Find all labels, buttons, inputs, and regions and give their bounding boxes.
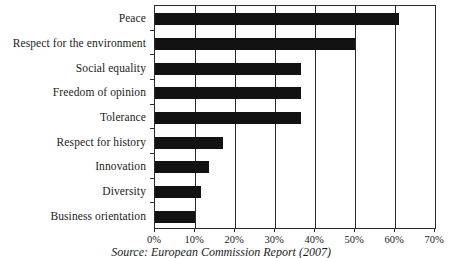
source-caption: Source: European Commission Report (2007… [0,246,450,258]
value-tick-label: 70% [414,233,450,246]
value-tick-label: 60% [374,233,414,246]
bar [155,137,223,149]
value-tick [274,228,275,232]
category-tick [150,104,155,105]
bar [155,211,195,223]
category-label: Freedom of opinion [0,86,146,98]
value-tick [194,228,195,232]
value-tick-label: 20% [214,233,254,246]
bar [155,161,209,173]
value-tick-label: 10% [174,233,214,246]
bar [155,38,355,50]
category-label: Tolerance [0,111,146,123]
value-tick-label: 0% [134,233,174,246]
bar-chart-figure: PeaceRespect for the environmentSocial e… [0,0,450,258]
plot-area [154,5,436,229]
category-tick [150,202,155,203]
value-tick-label: 30% [254,233,294,246]
category-label: Peace [0,12,146,24]
category-tick [150,79,155,80]
category-label: Respect for history [0,136,146,148]
bar [155,186,201,198]
bar [155,13,399,25]
category-tick [150,30,155,31]
value-tick [394,228,395,232]
value-tick [234,228,235,232]
category-label: Business orientation [0,210,146,222]
category-axis-ticks [148,5,155,227]
category-label: Social equality [0,62,146,74]
category-axis-labels: PeaceRespect for the environmentSocial e… [0,5,150,227]
value-tick [154,228,155,232]
value-axis-tick-labels: 0%10%20%30%40%50%60%70% [154,233,435,247]
category-tick [150,54,155,55]
category-tick [150,128,155,129]
value-tick [354,228,355,232]
category-tick [150,153,155,154]
value-tick [434,228,435,232]
category-label: Innovation [0,160,146,172]
category-label: Diversity [0,185,146,197]
value-tick-label: 50% [334,233,374,246]
category-label: Respect for the environment [0,37,146,49]
value-tick [314,228,315,232]
bar-series [155,6,435,228]
category-tick [150,178,155,179]
value-tick-label: 40% [294,233,334,246]
bar [155,63,301,75]
bar [155,87,301,99]
bar [155,112,301,124]
